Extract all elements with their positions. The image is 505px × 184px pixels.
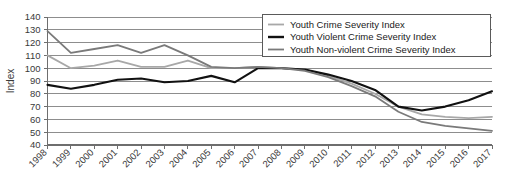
y-tick-label: 120 bbox=[25, 37, 41, 48]
chart-container: 405060708090100110120130140 199819992000… bbox=[0, 0, 505, 184]
line-chart: 405060708090100110120130140 199819992000… bbox=[0, 0, 505, 184]
x-tick-label: 1999 bbox=[50, 147, 73, 170]
y-tick-label: 70 bbox=[30, 101, 41, 112]
x-tick-label: 2013 bbox=[377, 147, 400, 170]
x-axis-ticks bbox=[48, 145, 493, 149]
x-axis-tick-labels: 1998199920002001200220032004200520062007… bbox=[26, 147, 493, 170]
x-tick-label: 2006 bbox=[213, 147, 236, 170]
y-axis-tick-labels: 405060708090100110120130140 bbox=[25, 11, 41, 150]
x-tick-label: 2014 bbox=[401, 147, 424, 170]
y-tick-label: 110 bbox=[25, 50, 40, 61]
y-tick-label: 60 bbox=[30, 114, 41, 125]
chart-legend: Youth Crime Severity IndexYouth Violent … bbox=[263, 15, 491, 57]
legend-label-1: Youth Violent Crime Severity Index bbox=[290, 31, 437, 42]
x-tick-label: 2008 bbox=[260, 147, 283, 170]
y-tick-label: 140 bbox=[25, 11, 41, 22]
y-tick-label: 90 bbox=[30, 75, 41, 86]
legend-label-0: Youth Crime Severity Index bbox=[290, 19, 405, 30]
x-tick-label: 2000 bbox=[73, 147, 96, 170]
x-tick-label: 2011 bbox=[331, 147, 353, 169]
x-tick-label: 2007 bbox=[237, 147, 260, 170]
legend-label-2: Youth Non-violent Crime Severity Index bbox=[290, 44, 456, 55]
x-tick-label: 2002 bbox=[120, 147, 143, 170]
y-tick-label: 130 bbox=[25, 24, 41, 35]
x-tick-label: 2017 bbox=[471, 147, 494, 170]
series-line-1 bbox=[48, 68, 493, 110]
y-tick-label: 80 bbox=[30, 88, 41, 99]
x-tick-label: 2012 bbox=[354, 147, 377, 170]
x-tick-label: 2001 bbox=[96, 147, 119, 170]
x-tick-label: 2003 bbox=[143, 147, 166, 170]
x-tick-label: 2004 bbox=[167, 147, 190, 170]
x-tick-label: 2009 bbox=[284, 147, 307, 170]
x-tick-label: 2015 bbox=[424, 147, 447, 170]
y-axis-title: Index bbox=[5, 69, 16, 93]
series-line-0 bbox=[48, 55, 493, 118]
y-tick-label: 50 bbox=[30, 127, 41, 138]
x-tick-label: 2005 bbox=[190, 147, 213, 170]
x-tick-label: 2016 bbox=[447, 147, 470, 170]
x-tick-label: 2010 bbox=[307, 147, 330, 170]
y-tick-label: 100 bbox=[25, 63, 41, 74]
